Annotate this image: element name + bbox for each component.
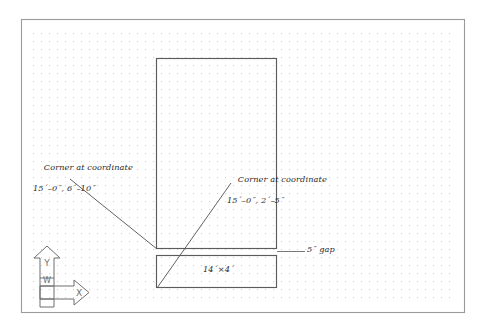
ucs-y-label: Y [43, 258, 50, 268]
annotation-corner-upper-left-line2: 15´–0˝, 6´–10˝ [33, 183, 133, 194]
ucs-world-label: W [43, 276, 51, 285]
annotation-gap-note: 5˝ gap [307, 244, 335, 255]
annotation-corner-lower-right-line2: 15´–0˝, 2´–5˝ [227, 195, 327, 206]
annotation-corner-upper-left: Corner at coordinate 15´–0˝, 6´–10˝ [33, 151, 133, 214]
annotation-corner-upper-left-line1: Corner at coordinate [44, 162, 133, 172]
annotation-slab-dimension: 14´×4´ [203, 264, 234, 275]
drawing-page: Y X W Corner at coordinate 15´–0˝, 6´–10… [0, 0, 487, 330]
ucs-x-label: X [76, 288, 82, 298]
annotation-corner-lower-right: Corner at coordinate 15´–0˝, 2´–5˝ [227, 163, 327, 226]
annotation-corner-lower-right-line1: Corner at coordinate [238, 174, 327, 184]
